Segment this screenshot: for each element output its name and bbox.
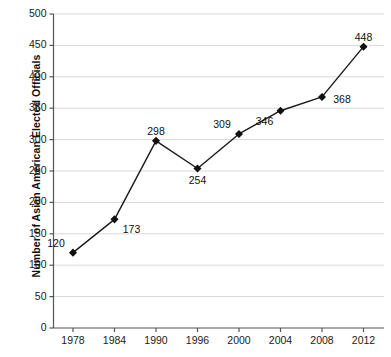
data-point-label: 346 (245, 115, 285, 127)
y-axis-tick-label: 450 (0, 38, 47, 50)
data-series-line (73, 47, 364, 253)
cropped-footer-artifact (0, 352, 391, 357)
y-axis-tick-label: 500 (0, 7, 47, 19)
series-line (73, 47, 364, 253)
y-axis-tick-label: 250 (0, 164, 47, 176)
data-point-label: 448 (344, 31, 384, 43)
data-point-label: 254 (178, 174, 218, 186)
y-axis-tick-label: 400 (0, 70, 47, 82)
y-axis-tick-label: 50 (0, 290, 47, 302)
y-axis-tick-label: 350 (0, 101, 47, 113)
data-point-label: 173 (112, 223, 152, 235)
data-point-label: 298 (136, 125, 176, 137)
gridlines (54, 14, 385, 297)
y-axis-tick-label: 300 (0, 133, 47, 145)
data-point-label: 120 (36, 237, 76, 249)
y-axis-tick-label: 100 (0, 258, 47, 270)
data-point-label: 368 (322, 93, 362, 105)
y-axis-tick-label: 0 (0, 321, 47, 333)
y-axis-tick-label: 200 (0, 195, 47, 207)
x-axis-tick-label: 2012 (339, 334, 389, 346)
line-chart: Number of Asian American Elected Officia… (0, 0, 391, 357)
data-point-label: 309 (202, 118, 242, 130)
